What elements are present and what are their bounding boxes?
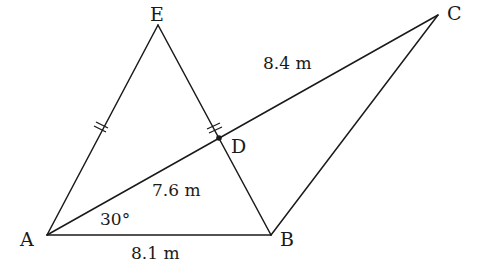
label-point-c: C [447, 2, 462, 24]
label-point-e: E [150, 3, 164, 25]
label-length-ab: 8.1 m [131, 243, 180, 263]
segment-bc [271, 15, 438, 235]
geometry-diagram: E C D A B 8.4 m 7.6 m 30° 8.1 m [0, 0, 488, 277]
label-angle-a: 30° [100, 209, 130, 229]
label-point-b: B [280, 228, 294, 250]
label-point-a: A [19, 228, 34, 250]
label-point-d: D [231, 135, 246, 157]
label-length-dc: 8.4 m [263, 53, 312, 73]
point-d-dot [216, 135, 222, 141]
label-length-ad: 7.6 m [152, 180, 201, 200]
